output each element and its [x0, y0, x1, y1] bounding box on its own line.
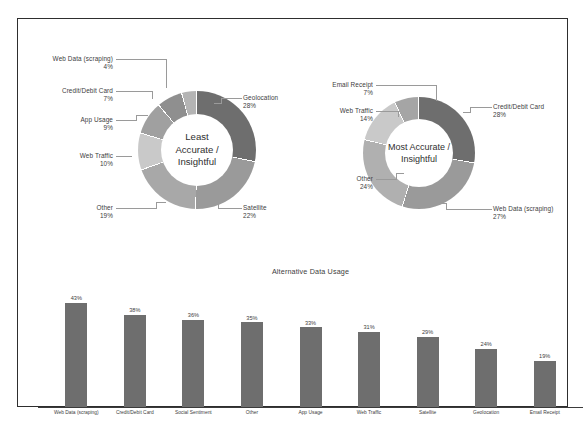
bar-value-label: 35% [246, 315, 257, 321]
label-right-other: Other 24% [286, 175, 373, 192]
leader-left-satellite-h [218, 208, 242, 209]
donut-right-center-line2: Insightful [401, 153, 437, 165]
leader-left-other-h [116, 208, 156, 209]
bar-category-label: Credit/Debit Card [106, 410, 165, 416]
leader-left-credit-h [116, 91, 152, 92]
leader-left-geolocation-h2 [214, 103, 222, 104]
bar-column[interactable]: 36% [182, 284, 204, 407]
leader-left-credit-v [152, 91, 153, 99]
label-left-web-traffic-pct: 10% [13, 160, 113, 168]
bar-chart-title: Alternative Data Usage [38, 267, 583, 276]
bar-rect[interactable] [124, 315, 146, 407]
leader-left-app-usage-v [136, 115, 137, 121]
bar-category-label: Web Data (scraping) [47, 410, 106, 416]
label-left-satellite-name: Satellite [243, 204, 333, 212]
donut-chart-most-accurate: Most Accurate / Insightful [363, 97, 475, 209]
bar-rect[interactable] [534, 361, 556, 407]
bar-value-label: 38% [129, 307, 140, 313]
bar-category-label: Social Sentiment [164, 410, 223, 416]
label-right-web-data: Web Data (scraping) 27% [493, 205, 586, 222]
label-right-other-pct: 24% [286, 183, 373, 191]
bar-category-label: Web Traffic [340, 410, 399, 416]
donut-right-center-label: Most Accurate / Insightful [365, 119, 473, 187]
bar-rect[interactable] [241, 322, 263, 407]
bar-value-label: 33% [305, 320, 316, 326]
bar-category-label: App Usage [281, 410, 340, 416]
label-right-credit: Credit/Debit Card 28% [493, 103, 586, 120]
bar-rect[interactable] [182, 320, 204, 407]
leader-right-email-v [436, 85, 437, 101]
bar-column[interactable]: 29% [417, 284, 439, 407]
bar-rect[interactable] [417, 337, 439, 407]
leader-right-credit-h [470, 107, 492, 108]
leader-left-app-usage-h2 [136, 115, 148, 116]
donut-left-center-line3: Insightful [178, 156, 216, 169]
bar-column[interactable]: 43% [65, 284, 87, 407]
label-left-satellite: Satellite 22% [243, 204, 333, 221]
bar-value-label: 36% [188, 312, 199, 318]
donut-right-center-line1: Most Accurate / [388, 141, 450, 153]
label-right-email-name: Email Receipt [273, 81, 373, 89]
leader-left-other-h2 [156, 202, 166, 203]
bar-column[interactable]: 38% [124, 284, 146, 407]
label-right-web-traffic-pct: 14% [286, 115, 373, 123]
leader-left-other-v [156, 202, 157, 209]
bar-rect[interactable] [475, 349, 497, 407]
bar-column[interactable]: 31% [358, 284, 380, 407]
label-right-other-name: Other [286, 175, 373, 183]
donut-left-center-line1: Least [185, 131, 208, 144]
bar-value-label: 19% [539, 353, 550, 359]
label-right-web-data-name: Web Data (scraping) [493, 205, 586, 213]
leader-left-geolocation-h [221, 98, 242, 99]
label-right-credit-pct: 28% [493, 111, 586, 119]
leader-left-satellite-h2 [210, 203, 219, 204]
label-left-other-name: Other [13, 204, 113, 212]
label-right-email: Email Receipt 7% [273, 81, 373, 98]
bar-value-label: 31% [363, 324, 374, 330]
bar-chart-plot-area: 43%38%36%35%33%31%29%24%19% [47, 284, 574, 407]
bar-column[interactable]: 24% [475, 284, 497, 407]
bar-column[interactable]: 33% [300, 284, 322, 407]
leader-right-other-h [376, 179, 396, 180]
label-right-web-data-pct: 27% [493, 213, 586, 221]
label-left-web-traffic-name: Web Traffic [13, 152, 113, 160]
leader-right-web-data-h2 [438, 203, 447, 204]
label-left-web-data-pct: 4% [13, 63, 113, 71]
label-left-credit-pct: 7% [13, 95, 113, 103]
bar-rect[interactable] [300, 327, 322, 407]
donut-left-center-line2: Accurate / [175, 144, 218, 157]
slide-frame: Least Accurate / Insightful Web Data (sc… [17, 18, 568, 407]
leader-right-web-data-h [446, 209, 492, 210]
leader-right-web-traffic-v [398, 111, 399, 117]
bar-category-label: Other [223, 410, 282, 416]
leader-right-email-h [376, 85, 436, 86]
bar-rect[interactable] [65, 303, 87, 407]
leader-right-other-h2 [396, 173, 404, 174]
bar-category-label: Satellite [398, 410, 457, 416]
label-right-email-pct: 7% [273, 89, 373, 97]
donut-chart-least-accurate: Least Accurate / Insightful [138, 91, 256, 209]
label-left-app-usage-pct: 9% [13, 124, 113, 132]
leader-left-app-usage-h [116, 120, 136, 121]
label-left-web-data: Web Data (scraping) 4% [13, 55, 113, 72]
bar-category-label: Email Receipt [515, 410, 574, 416]
leader-right-web-traffic-h [376, 111, 398, 112]
label-left-app-usage-name: App Usage [13, 116, 113, 124]
label-left-credit-name: Credit/Debit Card [13, 87, 113, 95]
leader-right-web-data-v [446, 203, 447, 210]
bar-value-label: 24% [481, 341, 492, 347]
leader-left-web-data-h [116, 59, 166, 60]
slide-canvas: Least Accurate / Insightful Web Data (sc… [0, 0, 586, 425]
label-left-app-usage: App Usage 9% [13, 116, 113, 133]
label-right-credit-name: Credit/Debit Card [493, 103, 586, 111]
leader-left-web-traffic-h [116, 156, 132, 157]
bar-column[interactable]: 35% [241, 284, 263, 407]
bar-column[interactable]: 19% [534, 284, 556, 407]
leader-left-web-data-v [166, 59, 167, 88]
label-left-credit: Credit/Debit Card 7% [13, 87, 113, 104]
label-left-web-data-name: Web Data (scraping) [13, 55, 113, 63]
bar-rect[interactable] [358, 332, 380, 407]
bar-value-label: 29% [422, 329, 433, 335]
label-left-satellite-pct: 22% [243, 212, 333, 220]
leader-right-other-v [396, 173, 397, 180]
